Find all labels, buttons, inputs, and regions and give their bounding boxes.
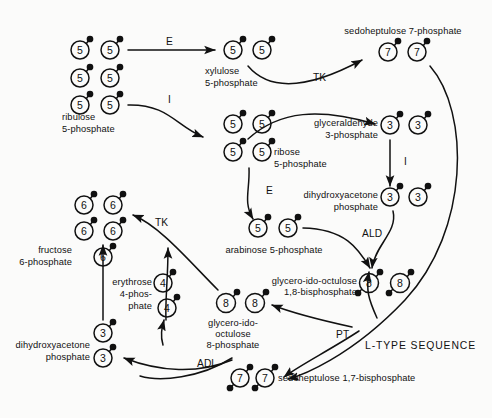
svg-text:5: 5 [107,44,113,56]
circle-ribose5p-3: 5 [224,138,246,161]
svg-text:3: 3 [100,352,106,364]
circle-fructose6p-3: 6 [75,217,97,240]
circle-ribose5p-2: 5 [253,110,275,133]
svg-text:3: 3 [415,119,421,131]
svg-text:6: 6 [81,199,87,211]
circle-sedoheptulose7p-1: 7 [379,38,401,61]
enzyme-label-aldolase-adl: ADL [197,358,217,369]
circle-ribulose5p-4: 5 [101,64,123,87]
label-octulose-8-phosphate-line2: octulose [215,329,250,339]
svg-text:8: 8 [397,277,403,289]
svg-text:7: 7 [414,46,420,58]
label-glyceraldehyde-3-phosphate-line1: glyceraldehyde [314,118,378,128]
circle-fructose6p-2: 6 [104,191,126,214]
circle-ribulose5p-2: 5 [101,36,123,59]
svg-text:8: 8 [223,297,229,309]
svg-text:6: 6 [110,225,116,237]
label-sedoheptulose-7-phosphate: sedoheptulose 7-phosphate [344,26,461,36]
circle-ribose5p-1: 5 [224,110,246,133]
enzyme-label-epimerase-top: E [166,36,173,47]
circle-fructose6p-5: 6 [94,243,116,266]
svg-text:5: 5 [107,72,113,84]
circle-erythrose4p-2: 4 [158,294,180,317]
svg-text:6: 6 [81,225,87,237]
svg-text:8: 8 [366,277,372,289]
enzyme-label-transketolase-top: TK [313,72,326,83]
enzyme-label-transketolase-low: TK [155,217,168,228]
label-dhap-mid-line1: dihydroxyacetone [304,190,378,200]
svg-text:5: 5 [259,118,265,130]
svg-text:6: 6 [110,199,116,211]
circle-dhap-low-1: 3 [94,319,116,342]
circle-sedoheptulose-1-7-bisphosphate-2: 7 [252,364,277,390]
svg-text:5: 5 [259,146,265,158]
circle-ribose5p-4: 5 [253,138,275,161]
enzyme-label-isomerase-top: I [168,94,171,105]
label-dhap-low-line2: phosphate [46,352,90,362]
svg-text:5: 5 [255,222,261,234]
circle-fructose6p-1: 6 [75,191,97,214]
circle-sedoheptulose-1-7-bisphosphate-1: 7 [227,364,252,390]
label-xylulose-5-phosphate-line1: xylulose [205,66,239,76]
svg-text:3: 3 [387,191,393,203]
label-ribose-5-phosphate-line1: ribose [274,147,300,157]
circle-dhap-low-2: 3 [94,344,116,367]
pentose-phosphate-l-type-diagram: 5 5 5 5 5 5 5 5 5 5 5 5 7 7 3 3 3 3 5 5 … [0,0,492,418]
circle-arabinose5p-1: 5 [249,214,271,237]
label-ribose-5-phosphate-line2: 5-phosphate [274,159,327,169]
svg-text:3: 3 [415,191,421,203]
circle-erythrose4p-1: 4 [154,269,176,292]
circle-arabinose5p-2: 5 [279,214,301,237]
svg-text:5: 5 [77,99,83,111]
circle-xylulose5p-2: 5 [253,36,275,59]
circle-glyceraldehyde3p-1: 3 [381,111,403,134]
label-octulose-1-8-bisphosphate-line2: 1,8-bisphosphate [284,287,357,297]
svg-text:3: 3 [387,119,393,131]
label-erythrose-4-phosphate-line1: erythrose [112,277,152,287]
enzyme-label-aldolase-ald: ALD [362,228,382,239]
enzyme-label-isomerase-mid: I [404,156,407,167]
svg-text:5: 5 [77,72,83,84]
circle-octulose-8-phosphate-1: 8 [217,289,240,312]
svg-text:3: 3 [100,327,106,339]
label-fructose-6-phosphate-line2: 6-phosphate [19,257,72,267]
circle-ribulose5p-6: 5 [101,91,123,114]
circle-xylulose5p-1: 5 [224,36,246,59]
circle-ribulose5p-1: 5 [71,36,93,59]
circle-glyceraldehyde3p-2: 3 [409,111,431,134]
label-fructose-6-phosphate-line1: fructose [38,245,72,255]
circle-sedoheptulose7p-2: 7 [408,38,430,61]
label-xylulose-5-phosphate-line2: 5-phosphate [205,78,258,88]
label-ribulose-5-phosphate-line1: ribulose [62,112,95,122]
circle-octulose-1-8-bisphosphate-1: 8 [355,269,382,295]
label-glyceraldehyde-3-phosphate-line2: 3-phosphate [325,130,378,140]
circle-octulose-1-8-bisphosphate-2: 8 [386,269,413,295]
label-octulose-1-8-bisphosphate-line1: glycero-ido-octulose [272,276,357,286]
enzyme-label-epimerase-mid: E [266,185,273,196]
label-dhap-mid-line2: phosphate [334,202,378,212]
label-octulose-8-phosphate-line3: 8-phosphate [207,340,260,350]
circle-fructose6p-4: 6 [104,217,126,240]
svg-text:7: 7 [262,372,268,384]
svg-text:5: 5 [77,44,83,56]
circle-octulose-8-phosphate-2: 8 [246,289,269,312]
label-erythrose-4-phosphate-line3: phate [128,301,152,311]
label-sedoheptulose-1-7-bisphosphate: sedoheptulose 1,7-bisphosphate [278,373,415,383]
label-ribulose-5-phosphate-line2: 5-phosphate [62,124,115,134]
svg-text:5: 5 [285,222,291,234]
enzyme-label-phosphotransferase: PT [336,329,349,340]
circle-ribulose5p-5: 5 [71,91,93,114]
svg-text:5: 5 [107,99,113,111]
svg-text:6: 6 [100,251,106,263]
circle-dhap-mid-2: 3 [409,183,431,206]
svg-text:5: 5 [230,118,236,130]
svg-text:5: 5 [230,44,236,56]
circle-group: 5 5 5 5 5 5 5 5 5 5 5 5 7 7 3 3 3 3 5 5 … [71,36,431,390]
svg-text:5: 5 [259,44,265,56]
svg-text:4: 4 [160,277,166,289]
label-erythrose-4-phosphate-line2: 4-phos- [120,289,152,299]
circle-dhap-mid-1: 3 [381,183,403,206]
svg-text:5: 5 [230,146,236,158]
svg-text:8: 8 [252,297,258,309]
svg-text:4: 4 [164,302,170,314]
